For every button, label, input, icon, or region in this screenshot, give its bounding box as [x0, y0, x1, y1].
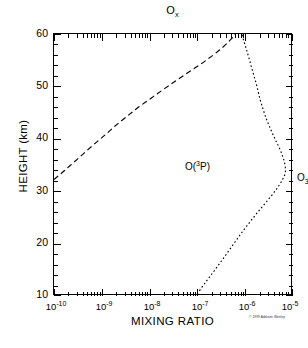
credit-text: © 1999 Addison Wesley [249, 315, 285, 319]
y-axis-title: HEIGHT (km) [17, 86, 29, 226]
series-line-o3 [197, 34, 285, 294]
plot-area: O(3P) O3 [53, 33, 292, 295]
o3p-curve-label: O(3P) [185, 158, 210, 172]
o3-curve-label: O3 [297, 172, 308, 187]
x-tick-label: 10-9 [96, 298, 113, 312]
figure-container: Ox 60 50 40 30 20 10 10-10 10-9 10-8 10-… [0, 0, 308, 348]
x-tick-label: 10-7 [192, 298, 209, 312]
curve-layer [54, 34, 291, 294]
x-tick-label: 10-8 [144, 298, 161, 312]
x-tick-label: 10-5 [282, 298, 299, 312]
x-tick-label: 10-6 [239, 298, 256, 312]
x-tick-label: 10-10 [46, 298, 66, 312]
